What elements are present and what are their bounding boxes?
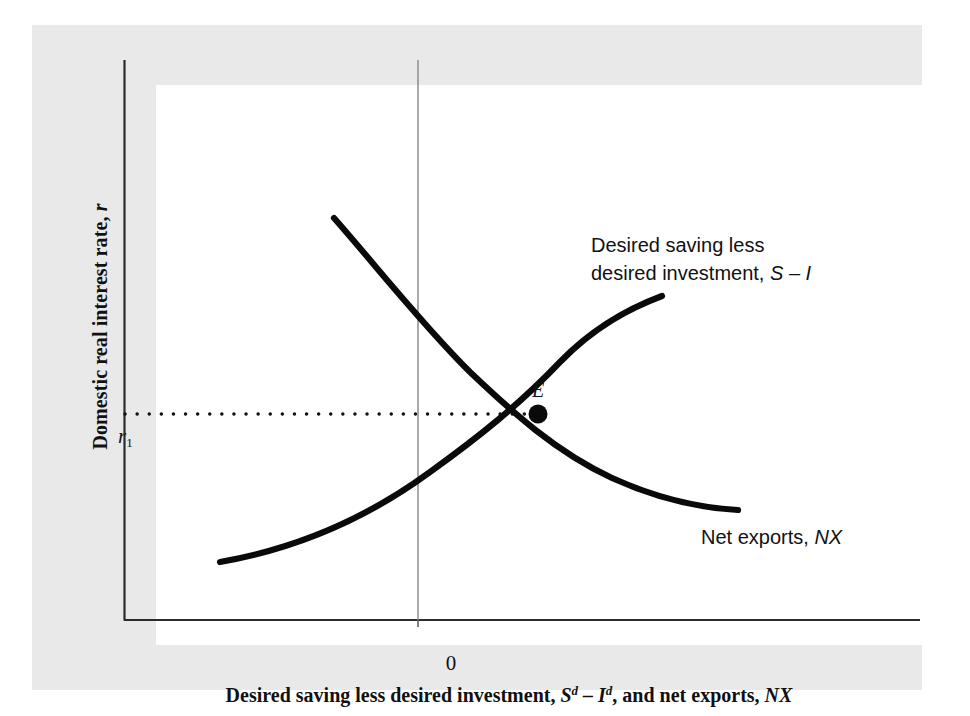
- annotation-nx-text: Net exports,: [701, 526, 814, 548]
- annotation-net-exports: Net exports, NX: [701, 524, 842, 552]
- annotation-si-line1: Desired saving less: [591, 232, 811, 260]
- annotation-si-symbol: S – I: [770, 262, 811, 284]
- annotation-si-line2: desired investment, S – I: [591, 260, 811, 288]
- equilibrium-label: E: [532, 379, 544, 402]
- figure-root: Domestic real interest rate, r r1 0 Desi…: [0, 0, 970, 716]
- annotation-saving-less-investment: Desired saving less desired investment, …: [591, 232, 811, 287]
- equilibrium-point-marker: [529, 405, 548, 424]
- annotation-nx-symbol: NX: [814, 526, 842, 548]
- chart-graphics: [0, 0, 970, 716]
- curve-saving-less-investment: [220, 296, 662, 562]
- annotation-si-line2-text: desired investment,: [591, 262, 770, 284]
